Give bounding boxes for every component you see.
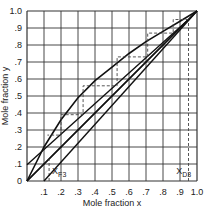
x-tick-label: .9 [176,187,184,197]
rectifying-operating-line [27,20,189,165]
x-tick-label: 1.0 [191,187,204,197]
y-tick-label: .5 [14,91,22,101]
y-tick-label: .6 [14,74,22,84]
y-tick-label: 0 [17,176,22,186]
annotation-label: XD3 [176,166,191,178]
x-tick-label: .3 [74,187,82,197]
x-tick-label: .2 [57,187,65,197]
y-tick-label: .7 [14,57,22,67]
x-tick-label: .8 [159,187,167,197]
x-tick-label: .4 [91,187,99,197]
y-tick-label: .8 [14,40,22,50]
y-tick-label: .2 [14,142,22,152]
y-tick-label: 1.0 [9,6,22,16]
x-tick-label: .1 [40,187,48,197]
annotation-label: XF3 [52,166,66,178]
x-tick-label: .5 [108,187,116,197]
x-axis-label: Mole fraction x [83,198,142,208]
x-tick-label: .7 [142,187,150,197]
y-tick-label: .9 [14,23,22,33]
x-tick-label: .6 [125,187,133,197]
y-axis-label: Mole fraction y [0,66,10,125]
mccabe-thiele-chart: .1.2.3.4.5.6.7.8.91.00.1.2.3.4.5.6.7.8.9… [0,0,210,209]
y-tick-label: .4 [14,108,22,118]
stages-dashed- [47,20,188,136]
y-tick-label: .1 [14,159,22,169]
y-tick-label: .3 [14,125,22,135]
